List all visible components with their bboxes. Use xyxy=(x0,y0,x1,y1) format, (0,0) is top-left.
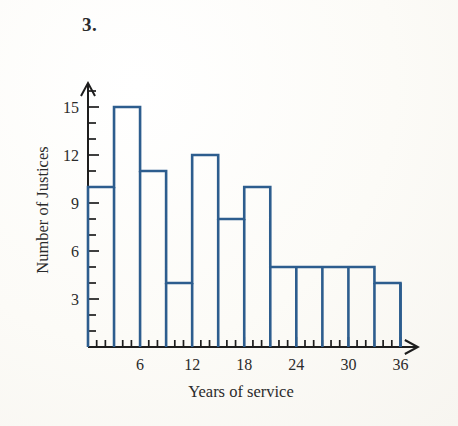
y-tick-label: 3 xyxy=(71,291,79,308)
histogram-plot: 369121561218243036 xyxy=(0,0,458,426)
x-tick-label: 6 xyxy=(136,356,144,373)
histogram-bars-group xyxy=(88,107,400,347)
axes-group xyxy=(81,83,418,354)
y-tick-label: 6 xyxy=(71,243,79,260)
y-tick-label: 15 xyxy=(63,99,79,116)
x-tick-label: 12 xyxy=(184,356,200,373)
y-tick-label: 9 xyxy=(71,195,79,212)
y-tick-label: 12 xyxy=(63,147,79,164)
x-tick-label: 24 xyxy=(288,356,304,373)
x-tick-label: 30 xyxy=(340,356,356,373)
x-tick-label: 18 xyxy=(236,356,252,373)
x-tick-label: 36 xyxy=(392,356,408,373)
